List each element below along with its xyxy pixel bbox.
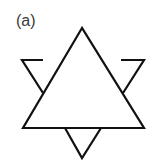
top-right-small-triangle [121,60,144,93]
star-diagram [0,0,161,161]
top-left-small-triangle [22,60,43,93]
large-triangle [23,28,144,128]
bottom-small-triangle [65,128,101,158]
